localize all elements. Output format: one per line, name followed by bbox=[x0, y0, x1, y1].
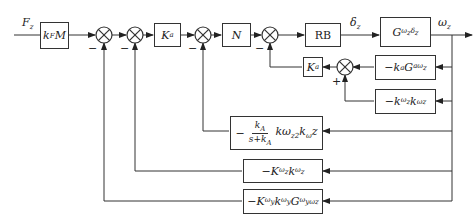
block-ka: Ka bbox=[154, 23, 181, 47]
block-diagram: Fz δz ωz − − − − + kFM Ka N RB Gωzδz −ka… bbox=[0, 0, 475, 223]
block-kfm: kFM bbox=[40, 22, 69, 49]
sum1-sign: − bbox=[88, 42, 97, 55]
sum4 bbox=[262, 27, 278, 43]
filter-fraction: kA s+kA bbox=[249, 120, 272, 147]
sum5 bbox=[337, 59, 353, 75]
block-fb-ka-g: −kaGaωz bbox=[375, 55, 436, 80]
sum3-sign: − bbox=[188, 42, 197, 55]
output-signal-label: ωz bbox=[438, 16, 451, 31]
block-n: N bbox=[222, 23, 251, 47]
sum1 bbox=[96, 27, 112, 43]
block-plant: Gωzδz bbox=[380, 17, 431, 47]
block-rb: RB bbox=[305, 23, 341, 47]
sum2 bbox=[127, 27, 143, 43]
block-fb-Kwy: −KωykωyGωyωz bbox=[243, 189, 323, 214]
sum2-sign: − bbox=[120, 42, 129, 55]
block-fb-filter: − kA s+kA kωz2kωz bbox=[230, 116, 323, 150]
delta-signal-label: δz bbox=[350, 16, 360, 31]
block-fb-kwz: −kωzkωz bbox=[375, 89, 436, 114]
input-signal-label: Fz bbox=[22, 16, 33, 31]
block-fb-Kwz: −Kωzkωz bbox=[243, 159, 323, 183]
sum5-sign: + bbox=[332, 75, 341, 88]
sum3 bbox=[195, 27, 211, 43]
sum4-sign: − bbox=[255, 42, 264, 55]
block-fb-ka2: Ka bbox=[303, 57, 323, 77]
